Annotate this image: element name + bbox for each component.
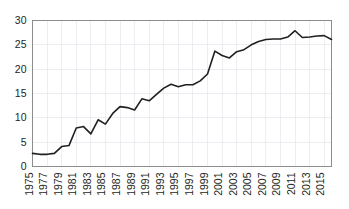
x-axis-tick-labels: 1975197719791981198319851987198919911993… bbox=[23, 172, 327, 196]
x-tick-label: 1983 bbox=[81, 172, 93, 196]
x-tick-label: 1985 bbox=[95, 172, 107, 196]
y-tick-label: 5 bbox=[21, 136, 27, 148]
x-tick-label: 1989 bbox=[125, 172, 137, 196]
data-series-line bbox=[33, 31, 332, 155]
y-tick-label: 20 bbox=[15, 63, 27, 75]
x-tick-label: 2005 bbox=[241, 172, 253, 196]
x-tick-label: 1979 bbox=[52, 172, 64, 196]
x-tick-label: 2011 bbox=[285, 172, 297, 195]
x-tick-label: 1987 bbox=[110, 172, 122, 196]
x-tick-label: 1999 bbox=[198, 172, 210, 196]
x-tick-label: 2003 bbox=[227, 172, 239, 196]
x-tick-label: 2015 bbox=[314, 172, 326, 196]
x-tick-label: 2007 bbox=[256, 172, 268, 196]
x-tick-label: 1997 bbox=[183, 172, 195, 196]
chart-canvas: 051015202530 197519771979198119831985198… bbox=[0, 0, 349, 209]
y-axis-tick-labels: 051015202530 bbox=[15, 14, 27, 172]
x-tick-label: 2013 bbox=[300, 172, 312, 196]
line-chart: 051015202530 197519771979198119831985198… bbox=[0, 0, 349, 209]
x-tick-label: 1991 bbox=[139, 172, 151, 196]
x-tick-label: 1993 bbox=[154, 172, 166, 196]
y-tick-label: 15 bbox=[15, 87, 27, 99]
x-tick-label: 2001 bbox=[212, 172, 224, 196]
x-tick-label: 1975 bbox=[23, 172, 35, 196]
x-tick-label: 1995 bbox=[168, 172, 180, 196]
x-tick-label: 2009 bbox=[270, 172, 282, 196]
y-tick-label: 0 bbox=[21, 160, 27, 172]
y-tick-label: 25 bbox=[15, 38, 27, 50]
x-tick-label: 1981 bbox=[66, 172, 78, 196]
grid-lines bbox=[33, 21, 332, 167]
x-tick-label: 1977 bbox=[37, 172, 49, 196]
y-tick-label: 10 bbox=[15, 111, 27, 123]
y-tick-label: 30 bbox=[15, 14, 27, 26]
